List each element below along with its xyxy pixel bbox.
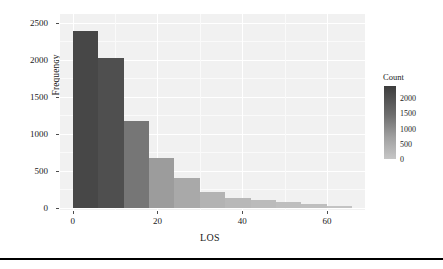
gridline-horizontal [60, 23, 365, 24]
histogram-bar [200, 192, 225, 208]
histogram-bar [276, 202, 301, 208]
colorbar-tick-label: 1000 [400, 124, 416, 133]
colorbar-tick-label: 0 [400, 155, 404, 164]
gridline-vertical [327, 14, 328, 210]
y-tick-label: 1000 [4, 129, 48, 139]
histogram-bar [149, 158, 174, 208]
colorbar-tick-label: 500 [400, 139, 412, 148]
x-tick-label: 60 [312, 216, 342, 226]
bottom-divider-rule [0, 258, 443, 260]
y-tick-mark [56, 171, 59, 172]
gridline-horizontal-minor [60, 41, 365, 42]
histogram-bar [73, 31, 98, 208]
x-tick-mark [242, 211, 243, 214]
y-tick-mark [56, 208, 59, 209]
x-tick-label: 20 [142, 216, 172, 226]
gridline-vertical-minor [200, 14, 201, 210]
plot-area [60, 14, 365, 210]
y-tick-label: 1500 [4, 92, 48, 102]
colorbar-tick-label: 1500 [400, 109, 416, 118]
x-tick-mark [327, 211, 328, 214]
colorbar-gradient [384, 86, 396, 159]
gridline-vertical-minor [285, 14, 286, 210]
histogram-bar [301, 204, 326, 208]
histogram-bar [251, 200, 276, 208]
gridline-vertical [242, 14, 243, 210]
histogram-bar [327, 206, 352, 208]
legend-title: Count [383, 72, 404, 82]
y-tick-label: 0 [4, 203, 48, 213]
y-tick-label: 2500 [4, 18, 48, 28]
y-tick-mark [56, 97, 59, 98]
histogram-bar [225, 198, 250, 208]
gridline-horizontal [60, 208, 365, 209]
histogram-bar [98, 58, 123, 208]
x-axis-label: LOS [60, 232, 360, 243]
y-tick-label: 2000 [4, 55, 48, 65]
colorbar-tick-label: 2000 [400, 94, 416, 103]
histogram-figure: Frequency 05001000150020002500 0204060 L… [0, 0, 443, 269]
y-tick-mark [56, 134, 59, 135]
histogram-bar [124, 121, 149, 208]
x-tick-mark [73, 211, 74, 214]
y-tick-label: 500 [4, 166, 48, 176]
x-tick-label: 40 [227, 216, 257, 226]
y-tick-mark [56, 60, 59, 61]
x-tick-mark [157, 211, 158, 214]
y-tick-mark [56, 23, 59, 24]
x-tick-label: 0 [58, 216, 88, 226]
histogram-bar [174, 178, 199, 208]
